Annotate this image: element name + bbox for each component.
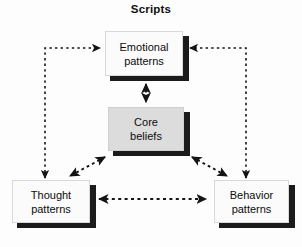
figure-canvas: Scripts	[0, 0, 302, 247]
core-shadow-right	[184, 112, 190, 156]
behavior-shadow-bottom	[219, 223, 295, 228]
thought-shadow-bottom	[17, 223, 96, 228]
core-shadow-bottom	[113, 151, 190, 156]
connector-thought-to-emotional	[45, 48, 100, 178]
node-core-beliefs[interactable]: Core beliefs	[108, 107, 184, 151]
node-behavior-line2: patterns	[232, 202, 272, 216]
node-emotional-patterns[interactable]: Emotional patterns	[105, 31, 183, 76]
node-thought-line2: patterns	[31, 202, 71, 216]
connector-behavior-to-emotional	[190, 48, 246, 178]
node-behavior-patterns[interactable]: Behavior patterns	[214, 180, 289, 223]
node-core-line1: Core	[134, 115, 158, 129]
connector-core-behavior	[192, 157, 227, 176]
node-thought-line1: Thought	[31, 188, 71, 202]
connector-core-thought	[70, 157, 105, 176]
node-core-line2: beliefs	[130, 129, 162, 143]
node-thought-patterns[interactable]: Thought patterns	[12, 180, 90, 223]
node-emotional-line2: patterns	[124, 54, 164, 68]
node-behavior-line1: Behavior	[230, 188, 273, 202]
thought-shadow-right	[90, 185, 96, 228]
emotional-shadow-right	[183, 36, 189, 81]
behavior-shadow-right	[289, 185, 295, 228]
node-emotional-line1: Emotional	[120, 40, 169, 54]
emotional-shadow-bottom	[110, 76, 189, 81]
